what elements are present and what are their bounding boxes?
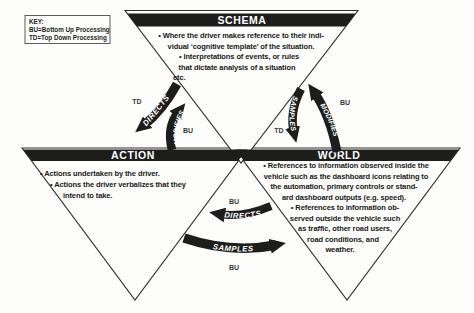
samples-right-label: SAMPLES — [289, 95, 300, 132]
diagram-canvas: SCHEMA ACTION WORLD • Where the driver m… — [0, 0, 474, 313]
world-line: • References to information observed ins… — [263, 161, 428, 170]
key-box: KEY: BU=Bottom Up Processing TD=Top Down… — [25, 16, 110, 44]
key-td-line: TD=Top Down Processing — [29, 34, 107, 42]
key-bu-line: BU=Bottom Up Processing — [29, 26, 110, 34]
key-title: KEY: — [29, 18, 44, 25]
world-line: the automation, primary controls or stan… — [270, 182, 418, 191]
perceptual-cycle-diagram: SCHEMA ACTION WORLD • Where the driver m… — [0, 0, 474, 313]
world-line: served outside the vehicle such — [290, 214, 401, 223]
action-line: intend to take. — [63, 191, 112, 200]
directs-left-label: DIRECTS — [141, 93, 172, 128]
action-title: ACTION — [111, 149, 155, 161]
bu-label-bottom-lower: BU — [229, 264, 239, 271]
world-line: ard dashboard outputs (e.g. speed). — [282, 193, 406, 202]
td-label-right: TD — [274, 127, 283, 134]
world-line: road conditions, and — [307, 235, 379, 244]
schema-line: • Interpretations of events, or rules — [179, 52, 299, 61]
schema-title: SCHEMA — [217, 14, 266, 26]
action-line: • Actions the driver verbalizes that the… — [50, 180, 187, 189]
bu-label-bottom-upper: BU — [229, 198, 239, 205]
world-line: • References to information ob- — [291, 203, 400, 212]
world-line: as traffic, other road users, — [298, 224, 392, 233]
schema-line: vidual ‘cognitive template’ of the situa… — [168, 42, 315, 51]
world-line: weather. — [324, 245, 354, 254]
schema-line: that dictate analysis of a situation — [179, 63, 296, 72]
td-label-left: TD — [132, 98, 141, 105]
bu-label-left: BU — [183, 127, 193, 134]
action-line: • Actions undertaken by the driver. — [40, 169, 160, 178]
bu-label-right: BU — [340, 99, 350, 106]
schema-line: etc. — [173, 73, 186, 82]
schema-line: • Where the driver makes reference to th… — [158, 31, 324, 40]
world-line: vehicle such as the dashboard icons rela… — [264, 172, 429, 181]
